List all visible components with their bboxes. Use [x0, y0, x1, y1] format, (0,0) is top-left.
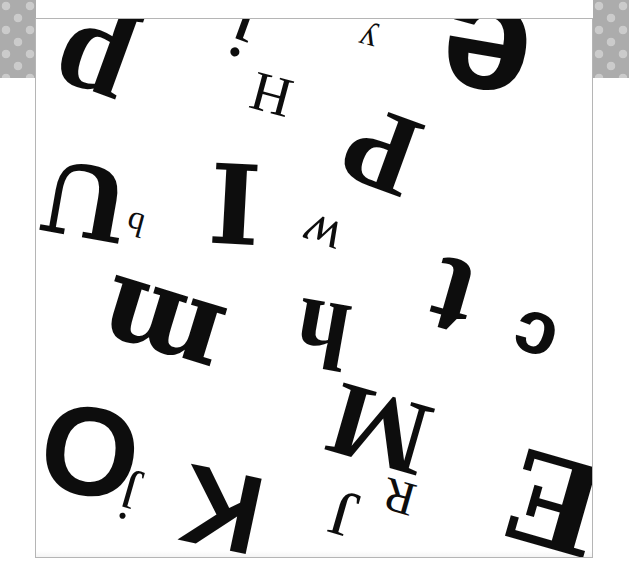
- halftone-corner-top-left: [0, 0, 36, 78]
- glyph-y: y: [355, 21, 380, 58]
- glyph-h-capital: H: [244, 63, 298, 128]
- glyph-k-capital: K: [170, 446, 272, 558]
- halftone-corner-top-right: [593, 0, 629, 78]
- glyph-e-capital: E: [494, 428, 593, 558]
- glyph-w-script: w: [295, 204, 349, 269]
- glyph-j-capital: J: [322, 479, 365, 550]
- glyph-e: e: [428, 18, 543, 146]
- letter-canvas: pjyeHPUbIwmhtcMOEKjJR: [35, 18, 593, 558]
- glyph-t: t: [415, 236, 489, 367]
- glyph-c: c: [502, 296, 566, 381]
- glyph-p-capital: P: [328, 84, 434, 217]
- scanned-page: pjyeHPUbIwmhtcMOEKjJR: [0, 0, 629, 576]
- glyph-p: p: [35, 18, 144, 145]
- glyph-u-capital: U: [35, 144, 136, 255]
- glyph-i-capital: I: [206, 150, 263, 263]
